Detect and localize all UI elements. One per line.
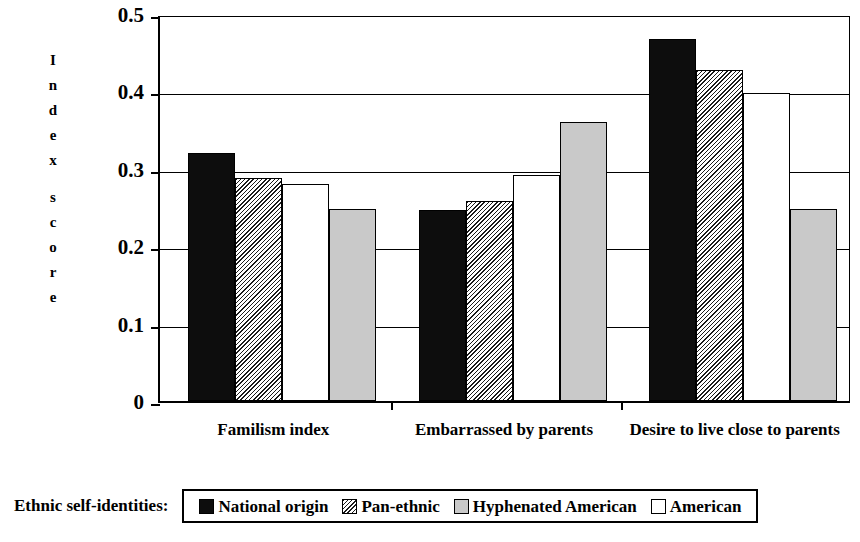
y-axis-title-letter: e: [36, 123, 70, 148]
y-axis-title-letter: c: [36, 210, 70, 235]
y-axis-title-letter: o: [36, 235, 70, 260]
bar: [743, 93, 790, 401]
legend-item: American: [651, 498, 742, 515]
y-axis-tick-label: 0.2: [118, 237, 144, 258]
y-axis-tick: [151, 327, 160, 329]
bar: [649, 39, 696, 401]
bar: [235, 178, 282, 401]
y-axis-title-letter: r: [36, 260, 70, 285]
x-axis-category-tick: [391, 401, 393, 410]
y-axis-title-letter: I: [36, 48, 70, 73]
legend-item-label: Pan-ethnic: [361, 498, 439, 515]
legend-item: Hyphenated American: [454, 498, 637, 515]
legend-item-label: American: [670, 498, 742, 515]
y-axis-tick: [151, 172, 160, 174]
legend-swatch-icon: [199, 499, 214, 514]
y-axis-title-letter: x: [36, 148, 70, 173]
bar: [513, 175, 560, 401]
y-axis-tick-label: 0.5: [118, 5, 144, 26]
y-axis-tick-label: 0: [134, 392, 145, 413]
bar: [419, 210, 466, 401]
bar: [282, 184, 329, 401]
y-axis-title-letter: n: [36, 73, 70, 98]
y-axis-tick: [151, 404, 160, 406]
y-axis-title-letter: s: [36, 185, 70, 210]
legend-swatch-icon: [651, 499, 666, 514]
legend-item: Pan-ethnic: [342, 498, 439, 515]
legend-item-label: Hyphenated American: [473, 498, 637, 515]
y-axis-tick: [151, 94, 160, 96]
y-axis-tick: [151, 249, 160, 251]
y-axis-tick: [151, 17, 160, 19]
y-axis-title-letter: d: [36, 98, 70, 123]
x-axis-category-label: Embarrassed by parents: [389, 418, 620, 441]
bar: [188, 153, 235, 401]
y-axis-title-gap: [36, 173, 70, 185]
bar: [560, 122, 607, 401]
legend-item: National origin: [199, 498, 328, 515]
legend-box: National originPan-ethnicHyphenated Amer…: [182, 489, 758, 523]
x-axis-category-label: Desire to live close to parents: [619, 418, 850, 441]
y-axis-tick-label: 0.3: [118, 160, 144, 181]
x-axis-category-labels: Familism indexEmbarrassed by parentsDesi…: [158, 418, 850, 478]
bar: [466, 201, 513, 401]
legend-swatch-icon: [454, 499, 469, 514]
legend-swatch-icon: [342, 499, 357, 514]
bar: [790, 209, 837, 401]
legend: Ethnic self-identities: National originP…: [0, 487, 860, 525]
legend-item-label: National origin: [218, 498, 328, 515]
plot-area: [158, 16, 850, 403]
legend-title: Ethnic self-identities:: [14, 496, 168, 516]
y-axis-title-letter: e: [36, 285, 70, 310]
y-axis-title: Indexscore: [36, 48, 70, 310]
bar: [696, 70, 743, 401]
x-axis-category-tick: [621, 401, 623, 410]
y-axis-tick-label: 0.1: [118, 315, 144, 336]
bar: [329, 209, 376, 401]
y-axis-tick-label: 0.4: [118, 82, 144, 103]
x-axis-category-label: Familism index: [158, 418, 389, 441]
